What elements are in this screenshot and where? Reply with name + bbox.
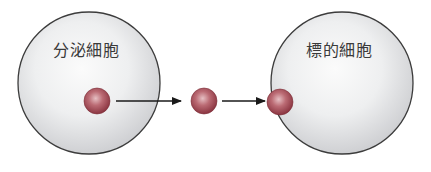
cell-signaling-diagram	[0, 0, 431, 172]
molecule-in-transit	[191, 88, 217, 114]
target-cell	[271, 12, 413, 154]
molecule-bound-to-target	[267, 89, 293, 115]
target-cell-label: 標的細胞	[306, 42, 372, 60]
secretory-cell-label: 分泌細胞	[53, 42, 119, 60]
molecule-in-secretory-cell	[84, 88, 110, 114]
secretory-cell	[18, 12, 160, 154]
